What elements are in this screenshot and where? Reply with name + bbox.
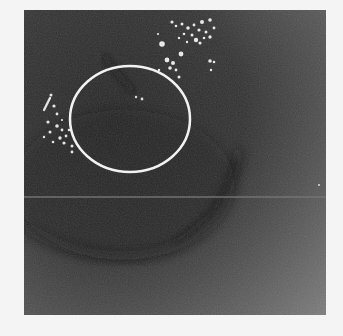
- image-frame: [24, 10, 326, 315]
- artifact-line: [24, 196, 326, 198]
- grayscale-image: [24, 10, 326, 315]
